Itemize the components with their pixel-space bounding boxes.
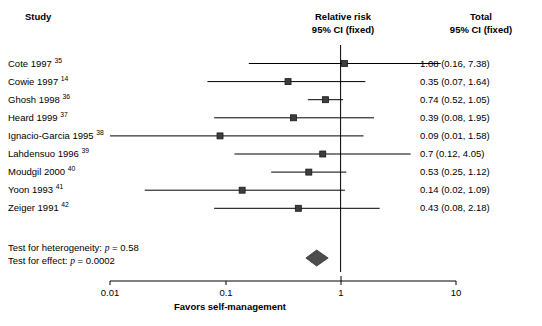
total-title-line1: Total xyxy=(420,12,542,22)
x-axis-layer xyxy=(110,276,456,285)
study-label: Heard 1999 37 xyxy=(8,113,68,123)
x-axis-tick-label: 10 xyxy=(426,288,486,298)
point-estimate-marker xyxy=(341,61,347,67)
total-ci-value: 0.39 (0.08, 1.95) xyxy=(420,113,538,123)
study-label: Cowie 1997 14 xyxy=(8,77,68,87)
study-reference-superscript: 38 xyxy=(96,129,104,136)
relative-risk-title-line1: Relative risk xyxy=(268,12,418,22)
study-label: Ignacio-Garcia 1995 38 xyxy=(8,131,104,141)
point-estimate-marker xyxy=(290,115,296,121)
effect-prefix: Test for effect: xyxy=(8,255,70,266)
x-axis-tick-label: 0.01 xyxy=(80,288,140,298)
point-estimate-marker xyxy=(217,133,223,139)
point-estimate-marker xyxy=(295,205,301,211)
study-reference-superscript: 37 xyxy=(60,111,68,118)
column-header-study: Study xyxy=(25,12,51,22)
study-reference-superscript: 35 xyxy=(54,56,62,63)
point-estimate-marker xyxy=(320,151,326,157)
total-ci-value: 0.14 (0.02, 1.09) xyxy=(420,185,538,195)
effect-value: = 0.0002 xyxy=(75,255,115,266)
point-estimate-marker xyxy=(285,79,291,85)
heterogeneity-test-text: Test for heterogeneity: p = 0.58 xyxy=(8,243,139,254)
effect-test-text: Test for effect: p = 0.0002 xyxy=(8,256,115,267)
column-header-total: Total 95% CI (fixed) xyxy=(420,12,542,34)
total-title-line2: 95% CI (fixed) xyxy=(420,25,542,35)
column-header-relative-risk: Relative risk 95% CI (fixed) xyxy=(268,12,418,34)
study-label: Yoon 1993 41 xyxy=(8,185,63,195)
study-reference-superscript: 42 xyxy=(61,201,69,208)
point-estimate-marker xyxy=(323,97,329,103)
study-label: Cote 1997 35 xyxy=(8,59,62,69)
study-label: Lahdensuo 1996 39 xyxy=(8,149,89,159)
x-axis-tick-label: 0.1 xyxy=(196,288,256,298)
total-ci-value: 0.09 (0.01, 1.58) xyxy=(420,131,538,141)
total-ci-value: 0.7 (0.12, 4.05) xyxy=(420,149,538,159)
heterogeneity-value: = 0.58 xyxy=(109,242,138,253)
study-label: Zeiger 1991 42 xyxy=(8,203,69,213)
total-ci-value: 0.35 (0.07, 1.64) xyxy=(420,77,538,87)
study-reference-superscript: 36 xyxy=(62,93,70,100)
point-estimate-marker xyxy=(239,187,245,193)
heterogeneity-prefix: Test for heterogeneity: xyxy=(8,242,105,253)
confidence-interval-layer xyxy=(110,61,441,212)
study-reference-superscript: 14 xyxy=(61,74,69,81)
study-reference-superscript: 39 xyxy=(81,147,89,154)
total-ci-value: 0.53 (0.25, 1.12) xyxy=(420,167,538,177)
study-reference-superscript: 41 xyxy=(56,183,64,190)
total-ci-value: 0.74 (0.52, 1.05) xyxy=(420,95,538,105)
study-label: Moudgil 2000 40 xyxy=(8,167,75,177)
x-axis-caption: Favors self-management xyxy=(115,302,345,312)
total-ci-value: 1.08 (0.16, 7.38) xyxy=(420,59,538,69)
study-reference-superscript: 40 xyxy=(68,165,76,172)
relative-risk-title-line2: 95% CI (fixed) xyxy=(268,25,418,35)
total-ci-value: 0.43 (0.08, 2.18) xyxy=(420,203,538,213)
summary-diamond-layer xyxy=(306,250,328,266)
study-label: Ghosh 1998 36 xyxy=(8,95,70,105)
forest-plot-canvas xyxy=(0,0,542,326)
point-estimate-marker xyxy=(306,169,312,175)
x-axis-tick-label: 1 xyxy=(311,288,371,298)
summary-diamond xyxy=(306,250,328,266)
